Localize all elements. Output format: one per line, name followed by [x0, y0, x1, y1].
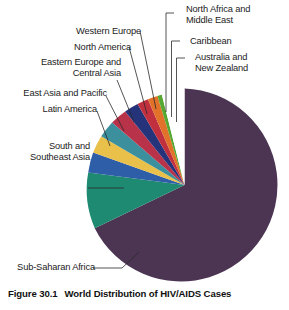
label-australia-line2: New Zealand: [195, 63, 248, 74]
label-australia-new-zealand: Australia and New Zealand: [195, 52, 248, 73]
label-sub-saharan-africa: Sub-Saharan Africa: [0, 262, 95, 273]
label-eastern-europe-central-asia: Eastern Europe and Central Asia: [0, 57, 121, 78]
label-western-europe: Western Europe: [1, 26, 141, 37]
label-north-africa-line2: Middle East: [186, 15, 250, 26]
label-east-asia-pacific: East Asia and Pacific: [0, 88, 107, 99]
label-eastern-europe-line1: Eastern Europe and: [0, 57, 121, 68]
label-north-africa-line1: North Africa and: [186, 4, 250, 15]
label-north-america: North America: [0, 42, 131, 53]
label-south-southeast-asia: South and Southeast Asia: [0, 141, 90, 162]
figure-panel: North Africa and Middle East Caribbean A…: [0, 0, 289, 310]
label-eastern-europe-line2: Central Asia: [0, 68, 121, 79]
figure-number: Figure 30.1: [8, 288, 58, 299]
figure-title: World Distribution of HIV/AIDS Cases: [65, 288, 232, 299]
label-south-asia-line2: Southeast Asia: [0, 152, 90, 163]
label-caribbean: Caribbean: [190, 36, 232, 47]
label-south-asia-line1: South and: [0, 141, 90, 152]
label-australia-line1: Australia and: [195, 52, 248, 63]
label-latin-america: Latin America: [0, 104, 97, 115]
figure-caption: Figure 30.1World Distribution of HIV/AID…: [8, 288, 283, 299]
label-north-africa-middle-east: North Africa and Middle East: [186, 4, 250, 25]
